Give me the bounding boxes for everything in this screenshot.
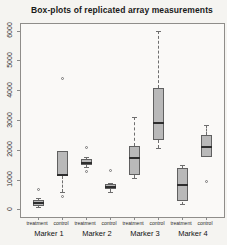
upper-whisker-cap bbox=[180, 165, 185, 166]
outlier-point bbox=[37, 188, 40, 191]
lower-whisker bbox=[158, 140, 159, 148]
lower-whisker-cap bbox=[84, 167, 89, 168]
outlier-point bbox=[109, 169, 112, 172]
median-line bbox=[105, 186, 116, 188]
x-axis-marker-label: Marker 4 bbox=[178, 229, 208, 238]
y-axis-tick-label: 0 bbox=[6, 207, 13, 211]
outlier-point bbox=[205, 180, 208, 183]
lower-whisker-cap bbox=[132, 178, 137, 179]
median-line bbox=[81, 162, 92, 164]
x-axis-condition-label: control bbox=[149, 220, 164, 226]
plot-area bbox=[20, 23, 225, 218]
x-axis-condition-label: control bbox=[53, 220, 68, 226]
x-axis-condition-label: treatment bbox=[122, 220, 143, 226]
x-axis-marker-label: Marker 2 bbox=[82, 229, 112, 238]
lower-whisker bbox=[62, 176, 63, 191]
median-line bbox=[153, 122, 164, 124]
iqr-box bbox=[129, 146, 140, 174]
y-axis-tick bbox=[17, 150, 20, 151]
outlier-point bbox=[85, 170, 88, 173]
median-line bbox=[177, 184, 188, 186]
chart-title: Box-plots of replicated array measuremen… bbox=[20, 5, 224, 15]
x-axis-marker-label: Marker 3 bbox=[130, 229, 160, 238]
y-axis-tick-label: 4000 bbox=[6, 82, 13, 98]
y-axis-tick bbox=[17, 90, 20, 91]
lower-whisker-cap bbox=[36, 207, 41, 208]
y-axis-tick-label: 3000 bbox=[6, 112, 13, 128]
x-axis-condition-label: treatment bbox=[74, 220, 95, 226]
lower-whisker-cap bbox=[156, 148, 161, 149]
boxplot-figure: Box-plots of replicated array measuremen… bbox=[0, 0, 227, 245]
median-line bbox=[129, 157, 140, 159]
iqr-box bbox=[153, 88, 164, 140]
upper-whisker-cap bbox=[132, 117, 137, 118]
x-axis-condition-label: treatment bbox=[26, 220, 47, 226]
y-axis-tick bbox=[17, 180, 20, 181]
x-axis-marker-label: Marker 1 bbox=[34, 229, 64, 238]
outlier-point bbox=[61, 195, 64, 198]
y-axis-tick-label: 1000 bbox=[6, 171, 13, 187]
lower-whisker-cap bbox=[180, 204, 185, 205]
y-axis-tick-label: 2000 bbox=[6, 141, 13, 157]
upper-whisker-cap bbox=[156, 31, 161, 32]
upper-whisker bbox=[158, 31, 159, 88]
x-axis-condition-label: control bbox=[101, 220, 116, 226]
lower-whisker-cap bbox=[60, 192, 65, 193]
y-axis-tick bbox=[17, 31, 20, 32]
y-axis-tick bbox=[17, 209, 20, 210]
upper-whisker-cap bbox=[84, 157, 89, 158]
median-line bbox=[201, 146, 212, 148]
iqr-box bbox=[57, 151, 68, 177]
upper-whisker bbox=[134, 117, 135, 146]
y-axis-tick-label: 6000 bbox=[6, 22, 13, 38]
outlier-point bbox=[85, 146, 88, 149]
median-line bbox=[57, 174, 68, 176]
lower-whisker-cap bbox=[108, 192, 113, 193]
upper-whisker-cap bbox=[204, 125, 209, 126]
upper-whisker bbox=[206, 125, 207, 135]
outlier-point bbox=[61, 77, 64, 80]
x-axis-condition-label: control bbox=[197, 220, 212, 226]
y-axis-tick bbox=[17, 120, 20, 121]
y-axis-tick-label: 5000 bbox=[6, 52, 13, 68]
median-line bbox=[33, 202, 44, 204]
y-axis-tick bbox=[17, 60, 20, 61]
x-axis-condition-label: treatment bbox=[170, 220, 191, 226]
